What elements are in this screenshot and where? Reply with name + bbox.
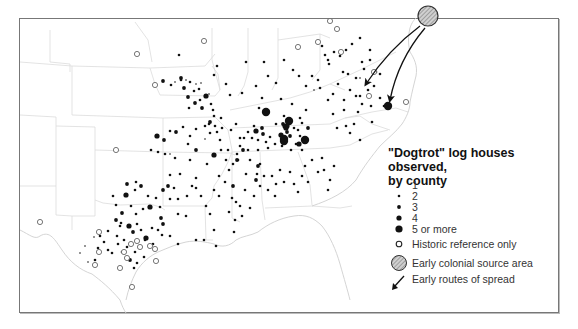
county-dot-2: [349, 132, 352, 135]
county-dot-3: [159, 216, 163, 220]
county-dot-2: [187, 143, 190, 146]
county-dot-2: [189, 135, 192, 138]
county-dot-4: [123, 192, 128, 197]
border-line: [56, 126, 163, 152]
hatched-circle-icon: [388, 254, 410, 272]
county-dot-3: [186, 95, 190, 99]
dot-size-4-icon: [388, 213, 410, 223]
border-line: [20, 62, 72, 115]
county-dot-3: [174, 130, 178, 134]
county-dot-2: [157, 229, 160, 232]
county-dot-2: [245, 173, 248, 176]
county-dot-2: [371, 121, 374, 124]
county-dot-2: [215, 245, 218, 248]
county-dot-2: [195, 177, 198, 180]
county-dot-2: [301, 122, 304, 125]
county-dot-2: [191, 185, 194, 188]
county-dot-2: [111, 252, 114, 255]
county-dot-2: [253, 125, 256, 128]
county-dot-2: [229, 94, 232, 97]
county-dot-2: [359, 95, 362, 98]
county-dot-2: [333, 51, 336, 54]
county-dot-2: [220, 117, 223, 120]
county-dot-2: [249, 159, 252, 162]
county-dot-2: [343, 109, 346, 112]
county-dot-2: [198, 88, 201, 91]
colonial-source-area: [418, 6, 438, 26]
county-dot-2: [169, 174, 172, 177]
legend-title-line1: "Dogtrot" log houses observed,: [388, 146, 558, 174]
historic-reference-circle: [121, 249, 126, 254]
county-dot-2: [164, 153, 167, 156]
county-dot-2: [373, 85, 376, 88]
observation-dots: [79, 37, 392, 270]
historic-reference-circle: [134, 238, 139, 243]
county-dot-2: [239, 205, 242, 208]
county-dot-3: [125, 182, 129, 186]
county-dot-2: [199, 99, 202, 102]
county-dot-2: [369, 49, 372, 52]
county-dot-2: [133, 267, 136, 270]
county-dot-2: [363, 68, 366, 71]
county-dot-2: [299, 117, 302, 120]
county-dot-2: [301, 149, 304, 152]
county-dot-2: [347, 73, 350, 76]
county-dot-2: [203, 239, 206, 242]
county-dot-2: [155, 197, 158, 200]
county-dot-2: [333, 165, 336, 168]
county-dot-2: [275, 123, 278, 126]
historic-reference-circle: [366, 93, 371, 98]
county-dot-2: [245, 61, 248, 64]
coast-line: [20, 230, 126, 313]
county-dot-2: [212, 109, 215, 112]
border-line: [163, 117, 232, 150]
historic-reference-circle: [295, 44, 300, 49]
county-dot-2: [161, 234, 164, 237]
county-dot-2: [249, 207, 252, 210]
county-dot-2: [230, 129, 233, 132]
county-dot-2: [257, 149, 260, 152]
county-dot-2: [231, 197, 234, 200]
county-dot-2: [361, 61, 364, 64]
county-dot-2: [327, 59, 330, 62]
county-dot-2: [267, 75, 270, 78]
border-line: [150, 54, 215, 68]
county-dot-4: [126, 223, 131, 228]
dot-size-5-icon: [388, 223, 410, 235]
county-dot-3: [166, 184, 170, 188]
border-line: [72, 115, 163, 160]
open-circle-icon: [388, 239, 410, 249]
border-line: [72, 66, 160, 95]
county-dot-2: [291, 103, 294, 106]
historic-reference-circle: [113, 147, 118, 152]
county-dot-4: [203, 93, 208, 98]
county-dot-2: [263, 61, 266, 64]
border-line: [272, 28, 278, 90]
historic-reference-circle: [37, 219, 42, 224]
county-dot-2: [134, 251, 137, 254]
historic-reference-circle: [129, 284, 134, 289]
county-dot-2: [182, 126, 185, 129]
county-dot-3: [231, 184, 235, 188]
county-dot-2: [298, 75, 301, 78]
historic-reference-circle: [403, 99, 408, 104]
county-dot-2: [213, 115, 216, 118]
legend: "Dogtrot" log houses observed, by county…: [388, 146, 558, 188]
county-dot-2: [345, 125, 348, 128]
county-dot-2: [228, 211, 231, 214]
county-dot-2: [324, 54, 327, 57]
county-dot-2: [263, 175, 266, 178]
historic-reference-circle: [152, 82, 157, 87]
county-dot-3: [256, 164, 260, 168]
county-dot-2: [241, 215, 244, 218]
county-dot-2: [236, 153, 239, 156]
county-dot-2: [321, 45, 324, 48]
county-dot-2: [235, 201, 238, 204]
county-dot-2: [305, 109, 308, 112]
county-dot-2: [317, 79, 320, 82]
county-dot-2: [304, 165, 307, 168]
historic-reference-circle: [92, 262, 97, 267]
county-dot-2: [243, 137, 246, 140]
border-line: [205, 206, 213, 240]
county-dot-2: [247, 131, 250, 134]
